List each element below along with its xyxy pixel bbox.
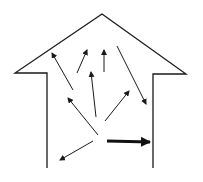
arrow-up-left-far-icon	[52, 53, 73, 90]
house-outline	[15, 14, 186, 168]
arrow-down-left-icon	[60, 141, 93, 160]
arrows-group	[52, 46, 150, 160]
arrow-up-right-mid-icon	[105, 91, 129, 121]
arrow-up-mid-icon	[91, 72, 96, 117]
arrow-thick-right-icon	[107, 141, 150, 142]
arrow-down-right-icon	[117, 46, 146, 104]
arrow-up-left-mid-icon	[68, 98, 98, 135]
house-arrows-diagram	[0, 0, 203, 182]
arrow-up-right-small-icon	[77, 50, 87, 73]
diagram-canvas	[0, 0, 203, 182]
